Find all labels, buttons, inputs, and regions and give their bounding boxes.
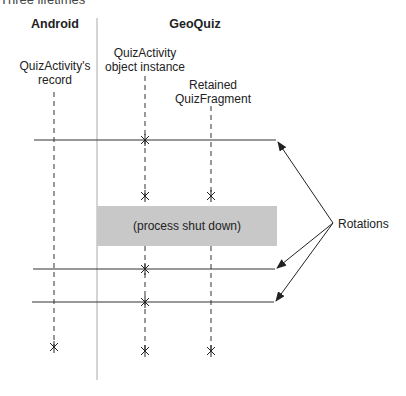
process-box-label: (process shut down) (97, 219, 277, 233)
activity-label: QuizActivity object instance (100, 46, 190, 74)
android-header: Android (20, 17, 90, 31)
rotations-label: Rotations (338, 217, 398, 231)
record-label: QuizActivity's record (10, 59, 100, 87)
rotation-arrow-1 (278, 142, 333, 223)
lifetime-diagram: Three lifetimes (0, 0, 406, 396)
geoquiz-header: GeoQuiz (160, 17, 230, 31)
fragment-label: Retained QuizFragment (168, 78, 258, 106)
